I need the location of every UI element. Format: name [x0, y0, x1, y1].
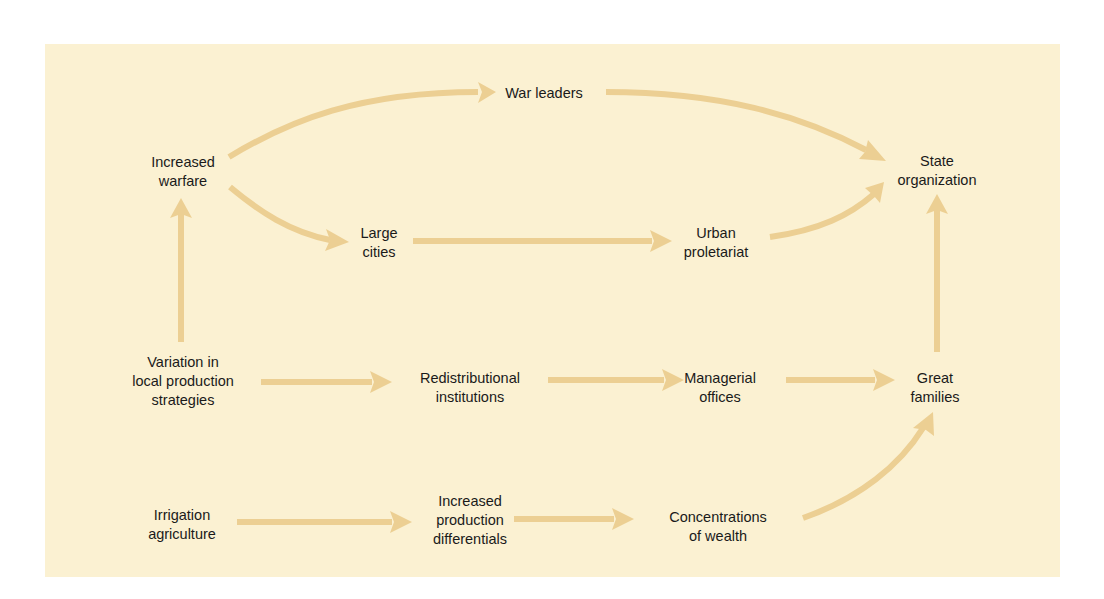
- node-variation-local-production: Variation in local production strategies: [132, 353, 234, 410]
- node-redistributional-institutions: Redistributional institutions: [420, 369, 520, 407]
- node-increased-warfare: Increased warfare: [151, 153, 215, 191]
- arrowhead-managerial: [662, 369, 684, 391]
- node-state-organization: State organization: [898, 152, 977, 190]
- arrow-urban-to-state: [770, 194, 874, 237]
- arrowhead-urban-proletariat: [650, 230, 672, 252]
- arrowhead-great-families: [873, 369, 895, 391]
- arrow-concentrations-to-great: [803, 428, 923, 518]
- node-great-families: Great families: [910, 369, 959, 407]
- node-concentrations-of-wealth: Concentrations of wealth: [669, 508, 767, 546]
- node-war-leaders: War leaders: [505, 84, 583, 103]
- arrow-warfare-to-war-leaders: [229, 92, 478, 157]
- arrow-war-leaders-to-state: [606, 92, 866, 150]
- node-irrigation-agriculture: Irrigation agriculture: [148, 506, 216, 544]
- arrow-warfare-to-large-cities: [230, 187, 330, 240]
- node-managerial-offices: Managerial offices: [684, 369, 756, 407]
- arrowhead-war-leaders: [478, 82, 496, 103]
- node-large-cities: Large cities: [360, 224, 397, 262]
- arrowhead-differentials: [390, 511, 412, 533]
- node-urban-proletariat: Urban proletariat: [684, 224, 748, 262]
- node-increased-production-differentials: Increased production differentials: [433, 492, 507, 549]
- arrowhead-concentrations: [612, 508, 634, 530]
- arrowhead-redistributional: [370, 371, 392, 393]
